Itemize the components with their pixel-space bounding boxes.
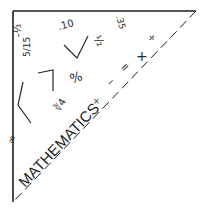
infinity-label: ∞ (4, 134, 19, 146)
cube-root-four-label: ∛4 (51, 96, 68, 113)
percent-label: % (68, 68, 85, 86)
square-root-icon (38, 70, 53, 91)
equals-sign: = (117, 59, 133, 75)
plus-sign: + (136, 48, 148, 64)
point-thirtyfive-label: .35 (114, 14, 127, 30)
divide-sign: ÷ (145, 31, 159, 45)
mathematics-title: MATHEMATICS (15, 99, 103, 190)
five-fifteenths-label: 5/15 (22, 37, 32, 57)
point-ten-label: .10 (57, 17, 75, 32)
mathematics-triangle-illustration: -⅓ 5/15 .10 .35 ½ % ∛4 ∞ × − = + ÷ MATHE… (0, 0, 205, 211)
square-root-icon (64, 36, 88, 58)
neg-third-label: -⅓ (12, 24, 23, 38)
square-root-icon (18, 82, 31, 123)
half-label: ½ (90, 33, 107, 49)
minus-sign: − (104, 76, 116, 88)
